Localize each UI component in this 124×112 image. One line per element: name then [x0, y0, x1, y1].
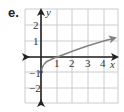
- svg-text:−1: −1: [29, 67, 41, 79]
- svg-text:1: 1: [33, 35, 39, 47]
- svg-text:x: x: [109, 58, 115, 70]
- svg-text:y: y: [45, 6, 51, 18]
- svg-text:1: 1: [54, 57, 60, 69]
- svg-text:4: 4: [100, 57, 106, 69]
- svg-text:2: 2: [69, 57, 75, 69]
- graph: 1 2 3 4 x y 2 1 −1 −2: [0, 0, 124, 112]
- svg-text:−2: −2: [29, 82, 41, 94]
- svg-text:2: 2: [33, 19, 39, 31]
- svg-text:3: 3: [85, 57, 91, 69]
